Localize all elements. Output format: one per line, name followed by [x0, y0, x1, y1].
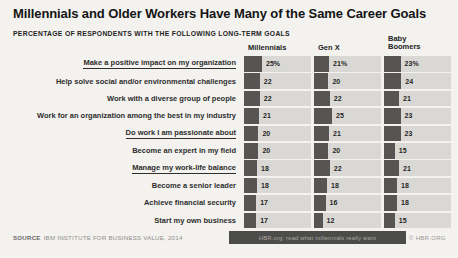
column-header-baby-boomers: Baby Boomers	[388, 35, 428, 51]
row-label: Work with a diverse group of people	[14, 91, 241, 107]
row-label-text: Help solve social and/or environmental c…	[56, 77, 236, 86]
value-cell: 21	[384, 91, 451, 107]
value-cell: 12	[314, 213, 381, 229]
value-label: 21	[403, 95, 411, 102]
value-bar	[384, 91, 399, 107]
value-bar	[314, 178, 327, 194]
value-label: 20	[332, 147, 340, 154]
row-label: Manage my work-life balance	[14, 160, 241, 176]
value-cell: 18	[384, 195, 451, 211]
value-label: 21%	[333, 60, 347, 67]
value-label: 21	[403, 165, 411, 172]
chart-canvas: Millennials and Older Workers Have Many …	[0, 0, 458, 258]
value-bar	[314, 56, 329, 72]
value-cell: 20	[314, 73, 381, 89]
chart-subtitle: PERCENTAGE OF RESPONDENTS WITH THE FOLLO…	[13, 30, 290, 37]
value-cell: 22	[314, 91, 381, 107]
value-label: 23	[405, 112, 413, 119]
value-label: 21	[263, 112, 271, 119]
row-label: Achieve financial security	[14, 195, 241, 211]
value-label: 20	[262, 147, 270, 154]
value-bar	[314, 91, 330, 107]
row-label: Start my own business	[14, 213, 241, 229]
value-cell: 17	[244, 195, 311, 211]
value-cell: 18	[244, 160, 311, 176]
value-label: 18	[401, 199, 409, 206]
value-bar	[244, 108, 259, 124]
value-label: 25	[336, 112, 344, 119]
value-label: 17	[260, 217, 268, 224]
column-header-genx: Gen X	[318, 44, 340, 52]
value-label: 22	[334, 165, 342, 172]
source-text: IBM INSTITUTE FOR BUSINESS VALUE, 2014	[44, 234, 183, 241]
source-label: SOURCE	[13, 234, 41, 241]
value-bar	[244, 195, 256, 211]
chart-grid: Make a positive impact on my organizatio…	[14, 56, 451, 228]
value-label: 18	[401, 182, 409, 189]
row-label-text: Make a positive impact on my organizatio…	[83, 58, 236, 69]
row-label: Work for an organization among the best …	[14, 108, 241, 124]
value-cell: 22	[314, 160, 381, 176]
value-cell: 23	[384, 108, 451, 124]
source-note: SOURCEIBM INSTITUTE FOR BUSINESS VALUE, …	[13, 234, 183, 241]
value-bar	[314, 143, 328, 159]
value-label: 17	[260, 199, 268, 206]
value-label: 20	[332, 78, 340, 85]
value-bar	[244, 56, 262, 72]
value-bar	[244, 91, 260, 107]
value-label: 18	[331, 182, 339, 189]
value-cell: 21	[244, 108, 311, 124]
column-header-millennials: Millennials	[248, 44, 286, 52]
value-cell: 18	[314, 178, 381, 194]
row-label: Make a positive impact on my organizatio…	[14, 56, 241, 72]
value-bar	[314, 213, 323, 229]
value-label: 22	[334, 95, 342, 102]
value-cell: 21	[384, 160, 451, 176]
value-bar	[384, 108, 401, 124]
row-label: Help solve social and/or environmental c…	[14, 73, 241, 89]
value-cell: 16	[314, 195, 381, 211]
value-cell: 21	[314, 126, 381, 142]
value-cell: 15	[384, 143, 451, 159]
value-label: 15	[399, 217, 407, 224]
value-bar	[384, 126, 401, 142]
value-cell: 22	[244, 73, 311, 89]
value-label: 18	[261, 182, 269, 189]
value-label: 23%	[405, 60, 419, 67]
row-label-text: Start my own business	[154, 216, 236, 225]
row-label: Do work I am passionate about	[14, 126, 241, 142]
value-cell: 18	[384, 178, 451, 194]
value-bar	[384, 73, 401, 89]
value-label: 23	[405, 130, 413, 137]
value-bar	[314, 73, 328, 89]
value-bar	[244, 73, 260, 89]
value-label: 20	[262, 130, 270, 137]
value-cell: 24	[384, 73, 451, 89]
value-label: 12	[327, 217, 335, 224]
copyright-note: © HBR.ORG	[409, 235, 446, 241]
row-label-text: Become a senior leader	[152, 181, 236, 190]
value-bar	[384, 160, 399, 176]
row-label-text: Do work I am passionate about	[126, 128, 236, 139]
watermark-overlay: HBR.org: read what millennials really wa…	[229, 231, 406, 244]
row-label-text: Manage my work-life balance	[132, 163, 236, 174]
value-cell: 25	[314, 108, 381, 124]
value-bar	[244, 213, 256, 229]
row-label-text: Become an expert in my field	[132, 146, 236, 155]
value-cell: 20	[244, 143, 311, 159]
value-cell: 25%	[244, 56, 311, 72]
value-cell: 21%	[314, 56, 381, 72]
row-label: Become a senior leader	[14, 178, 241, 194]
value-cell: 23	[384, 126, 451, 142]
value-bar	[314, 108, 332, 124]
value-label: 22	[264, 95, 272, 102]
row-label: Become an expert in my field	[14, 143, 241, 159]
value-bar	[384, 178, 397, 194]
row-label-text: Achieve financial security	[144, 198, 236, 207]
row-label-text: Work for an organization among the best …	[37, 111, 236, 120]
value-cell: 17	[244, 213, 311, 229]
value-label: 16	[330, 199, 338, 206]
value-cell: 15	[384, 213, 451, 229]
value-cell: 20	[314, 143, 381, 159]
value-bar	[314, 160, 330, 176]
